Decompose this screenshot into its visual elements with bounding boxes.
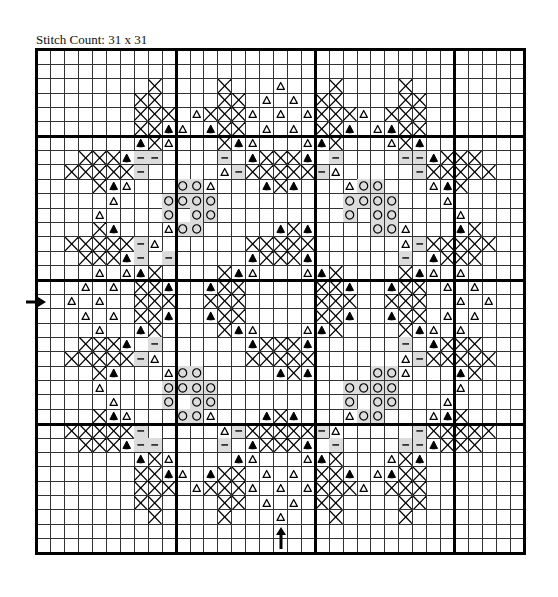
empty-cell — [357, 424, 371, 439]
empty-cell — [413, 179, 427, 194]
cross-icon — [454, 438, 467, 452]
empty-cell — [357, 50, 371, 65]
empty-cell — [510, 481, 524, 496]
empty-cell — [427, 510, 441, 525]
empty-cell — [399, 381, 413, 396]
stitch-count-label: Stitch Count: 31 x 31 — [36, 32, 147, 48]
empty-cell — [120, 107, 134, 122]
open-triangle-cell — [468, 309, 482, 324]
cross-icon — [287, 237, 300, 251]
empty-cell — [37, 352, 51, 367]
cross-icon — [93, 222, 106, 236]
empty-cell — [510, 539, 524, 554]
empty-cell — [120, 64, 134, 79]
empty-cell — [482, 280, 496, 295]
empty-cell — [371, 64, 385, 79]
cross-icon — [315, 294, 328, 308]
circle-cell — [371, 179, 385, 194]
filled-triangle-icon — [107, 366, 120, 380]
empty-cell — [343, 237, 357, 252]
empty-cell — [37, 366, 51, 381]
open-triangle-cell — [246, 323, 260, 338]
cross-stitch-cell — [93, 222, 107, 237]
empty-cell — [176, 294, 190, 309]
empty-cell — [343, 323, 357, 338]
empty-cell — [37, 467, 51, 482]
empty-cell — [107, 208, 121, 223]
empty-cell — [134, 510, 148, 525]
circle-icon — [357, 194, 370, 208]
open-triangle-cell — [93, 323, 107, 338]
empty-cell — [176, 208, 190, 223]
dash-cell — [399, 251, 413, 266]
empty-cell — [413, 524, 427, 539]
cross-icon — [385, 294, 398, 308]
empty-cell — [246, 510, 260, 525]
cross-icon — [399, 481, 412, 495]
empty-cell — [454, 467, 468, 482]
empty-cell — [120, 496, 134, 511]
open-triangle-icon — [329, 424, 342, 438]
empty-cell — [107, 510, 121, 525]
empty-cell — [120, 467, 134, 482]
cross-icon — [93, 438, 106, 452]
empty-cell — [246, 179, 260, 194]
empty-cell — [246, 79, 260, 94]
circle-cell — [343, 208, 357, 223]
open-triangle-icon — [93, 208, 106, 222]
cross-icon — [79, 352, 92, 366]
empty-cell — [204, 366, 218, 381]
cross-icon — [441, 438, 454, 452]
cross-stitch-cell — [385, 107, 399, 122]
open-triangle-icon — [246, 136, 259, 150]
filled-triangle-cell — [204, 467, 218, 482]
empty-cell — [65, 381, 79, 396]
empty-cell — [482, 64, 496, 79]
dash-icon — [413, 438, 426, 452]
open-triangle-icon — [441, 194, 454, 208]
filled-triangle-cell — [107, 222, 121, 237]
cross-stitch-cell — [107, 165, 121, 180]
cross-icon — [287, 337, 300, 351]
filled-triangle-icon — [301, 222, 314, 236]
cross-icon — [274, 251, 287, 265]
empty-cell — [120, 208, 134, 223]
empty-cell — [413, 366, 427, 381]
cross-icon — [315, 309, 328, 323]
circle-cell — [385, 222, 399, 237]
empty-cell — [232, 381, 246, 396]
cross-icon — [441, 151, 454, 165]
empty-cell — [204, 251, 218, 266]
empty-cell — [357, 151, 371, 166]
cross-icon — [329, 452, 342, 466]
empty-cell — [120, 93, 134, 108]
cross-stitch-cell — [413, 294, 427, 309]
empty-cell — [371, 309, 385, 324]
filled-triangle-cell — [232, 452, 246, 467]
filled-triangle-icon — [427, 251, 440, 265]
empty-cell — [218, 539, 232, 554]
circle-icon — [385, 366, 398, 380]
empty-cell — [287, 64, 301, 79]
empty-cell — [385, 165, 399, 180]
cross-icon — [79, 165, 92, 179]
cross-stitch-cell — [120, 237, 134, 252]
filled-triangle-cell — [427, 251, 441, 266]
dash-icon — [232, 165, 245, 179]
empty-cell — [107, 524, 121, 539]
empty-cell — [65, 395, 79, 410]
circle-icon — [357, 179, 370, 193]
filled-triangle-icon — [343, 122, 356, 136]
open-triangle-icon — [441, 395, 454, 409]
cross-icon — [162, 107, 175, 121]
open-triangle-cell — [274, 481, 288, 496]
open-triangle-icon — [218, 424, 231, 438]
empty-cell — [482, 136, 496, 151]
cross-icon — [301, 165, 314, 179]
cross-icon — [329, 266, 342, 280]
cross-icon — [260, 438, 273, 452]
empty-cell — [232, 395, 246, 410]
empty-cell — [510, 222, 524, 237]
empty-cell — [176, 50, 190, 65]
empty-cell — [510, 194, 524, 209]
